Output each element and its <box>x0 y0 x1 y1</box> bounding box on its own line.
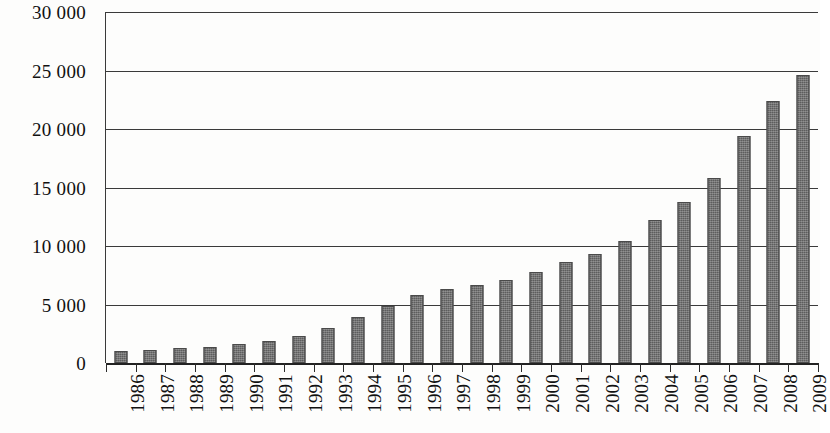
bar-slot <box>225 12 255 363</box>
x-axis-tick <box>788 363 789 372</box>
x-axis-tick <box>581 363 582 372</box>
bar-slot <box>610 12 640 363</box>
bar <box>589 254 602 363</box>
x-axis-tick <box>492 363 493 372</box>
bar <box>114 351 127 363</box>
bar <box>144 350 157 363</box>
bar-slot <box>195 12 225 363</box>
bar <box>352 317 365 363</box>
x-axis-tick <box>373 363 374 372</box>
y-axis-tick-label: 15 000 <box>32 178 86 197</box>
x-axis-tick-label: 1990 <box>247 374 266 413</box>
bar-slot <box>432 12 462 363</box>
y-axis-tick-label: 25 000 <box>32 61 86 80</box>
x-axis-tick-label: 1988 <box>187 374 206 413</box>
bar-slot <box>165 12 195 363</box>
x-axis-tick <box>521 363 522 372</box>
bar-slot <box>551 12 581 363</box>
bar <box>619 241 632 363</box>
x-axis-tick <box>165 363 166 372</box>
x-axis-tick-label: 1992 <box>306 374 325 413</box>
bar <box>648 220 661 363</box>
x-axis-tick-label: 2002 <box>603 374 622 413</box>
x-axis-tick-label: 2004 <box>662 374 681 413</box>
x-axis-tick <box>403 363 404 372</box>
x-axis-tick-label: 1997 <box>454 374 473 413</box>
bar <box>678 202 691 363</box>
y-axis-labels: 05 00010 00015 00020 00025 00030 000 <box>0 0 96 433</box>
x-axis-tick-label: 1994 <box>365 374 384 413</box>
x-axis-tick <box>136 363 137 372</box>
x-axis-tick-label: 1986 <box>128 374 147 413</box>
x-axis-tick-label: 1991 <box>276 374 295 413</box>
bar <box>381 306 394 363</box>
x-axis-tick <box>195 363 196 372</box>
x-axis-tick-label: 1995 <box>395 374 414 413</box>
x-axis-tick-label: 1998 <box>484 374 503 413</box>
x-axis-labels: 1986198719881989199019911992199319941995… <box>106 372 818 433</box>
x-axis-tick-label: 2000 <box>543 374 562 413</box>
bar <box>411 295 424 363</box>
x-axis-tick <box>106 363 107 372</box>
bar-slot <box>788 12 818 363</box>
bar-slot <box>492 12 522 363</box>
bar-slot <box>729 12 759 363</box>
bar <box>292 336 305 363</box>
bar-slot <box>462 12 492 363</box>
bar-slot <box>670 12 700 363</box>
x-axis-tick <box>314 363 315 372</box>
x-axis-tick <box>343 363 344 372</box>
bar <box>441 289 454 363</box>
x-axis-tick-label: 2007 <box>751 374 770 413</box>
x-axis-tick <box>254 363 255 372</box>
y-axis-tick-label: 0 <box>76 354 86 373</box>
bar-slot <box>699 12 729 363</box>
x-axis-tick-label: 1993 <box>336 374 355 413</box>
x-axis-tick <box>225 363 226 372</box>
bar-slot <box>136 12 166 363</box>
bar <box>233 344 246 363</box>
y-axis-tick-label: 5 000 <box>42 295 86 314</box>
x-axis-tick <box>729 363 730 372</box>
bar-slot <box>403 12 433 363</box>
x-axis-ticks <box>106 363 818 372</box>
y-axis-tick-label: 10 000 <box>32 237 86 256</box>
bar-slot <box>373 12 403 363</box>
bar <box>203 347 216 363</box>
x-axis-tick <box>551 363 552 372</box>
bar <box>322 328 335 363</box>
bar-slot <box>284 12 314 363</box>
x-axis-tick <box>610 363 611 372</box>
x-axis-tick <box>699 363 700 372</box>
x-axis-tick-label: 2008 <box>781 374 800 413</box>
bar <box>767 101 780 363</box>
bar-slot <box>759 12 789 363</box>
x-axis-tick <box>432 363 433 372</box>
bar <box>530 272 543 363</box>
bar <box>737 136 750 363</box>
x-axis-tick-label: 1996 <box>425 374 444 413</box>
y-axis-tick-label: 30 000 <box>32 3 86 22</box>
bar-slot <box>640 12 670 363</box>
bar <box>174 348 187 363</box>
x-axis-tick <box>759 363 760 372</box>
bar <box>470 285 483 363</box>
bar-slot <box>343 12 373 363</box>
bar-slot <box>314 12 344 363</box>
bar <box>559 262 572 363</box>
x-axis-tick-label: 2001 <box>573 374 592 413</box>
x-axis-tick <box>462 363 463 372</box>
bar <box>797 75 810 363</box>
x-axis-tick-label: 2005 <box>692 374 711 413</box>
y-axis-tick-label: 20 000 <box>32 120 86 139</box>
x-axis-tick-label: 1989 <box>217 374 236 413</box>
x-axis-tick-label: 2009 <box>810 374 829 413</box>
bar-slot <box>254 12 284 363</box>
bar-slot <box>581 12 611 363</box>
bar <box>708 178 721 363</box>
x-axis-tick-label: 2006 <box>721 374 740 413</box>
bar-series <box>106 12 818 363</box>
x-axis-tick <box>284 363 285 372</box>
x-axis-tick <box>670 363 671 372</box>
